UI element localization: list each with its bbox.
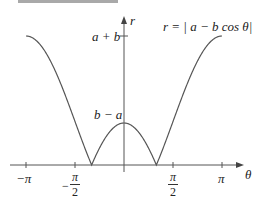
y-tick-label-a-plus-b: a + b xyxy=(92,30,120,43)
r-axis-arrow-icon xyxy=(121,16,127,24)
x-tick-label-pi: π xyxy=(218,172,225,185)
r-axis-label: r xyxy=(130,14,135,27)
theta-axis-label: θ xyxy=(245,168,251,181)
x-tick-label-neg-half-pi: π 2 xyxy=(70,171,80,198)
theta-axis-arrow-icon xyxy=(236,162,244,168)
x-tick-label-half-pi: π 2 xyxy=(168,171,178,198)
equation-label: r = | a − b cos θ| xyxy=(163,20,252,33)
y-tick-label-b-minus-a: b − a xyxy=(94,108,122,121)
x-tick-label-neg-pi: −π xyxy=(16,172,31,185)
x-tick-minus-sign: − xyxy=(62,180,69,192)
